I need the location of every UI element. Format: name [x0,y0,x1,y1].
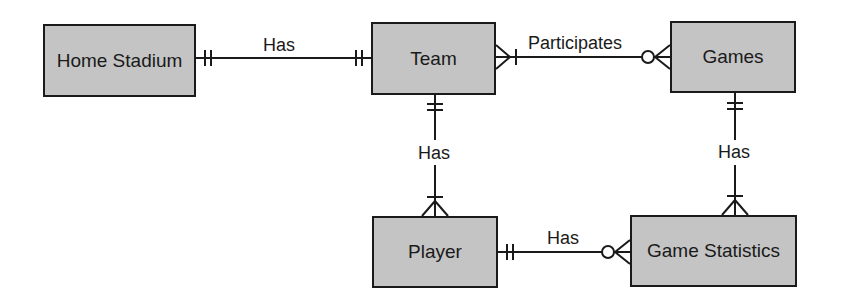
er-diagram: Home Stadium Team Games Player Game Stat… [0,0,849,302]
entity-label: Home Stadium [57,50,183,72]
rel-label-has: Has [415,143,453,163]
entity-home-stadium: Home Stadium [43,24,196,97]
entity-label: Player [408,241,462,263]
entity-label: Games [702,46,763,68]
entity-team: Team [371,22,496,95]
rel-label-participates: Participates [525,33,625,53]
entity-games: Games [670,21,796,93]
entity-player: Player [372,216,498,288]
rel-label-has: Has [260,35,298,55]
rel-label-has: Has [544,228,582,248]
rel-label-has: Has [715,142,753,162]
entity-label: Team [410,48,456,70]
entity-label: Game Statistics [647,240,780,262]
entity-game-statistics: Game Statistics [630,215,797,287]
